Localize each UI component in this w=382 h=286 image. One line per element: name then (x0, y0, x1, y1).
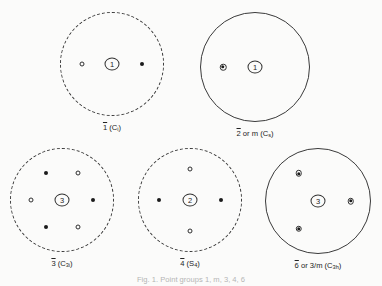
point-open (75, 225, 80, 230)
label-one-bar: 1 (Ci) (103, 124, 121, 133)
label-rest-text: or 3/m (C (299, 261, 333, 270)
label-tail-text: ) (271, 129, 274, 138)
onefold-axis-symbol: 1 (248, 61, 263, 74)
label-three-bar: 3 (C3i) (51, 260, 72, 269)
point-filled (44, 225, 48, 229)
label-two-bar-m: 2 or m (Cs) (237, 130, 274, 139)
point-superposed (296, 225, 303, 232)
point-group-stereogram-figure: 1 1 (Ci) 1 2 or m (Cs) 3 3 (C3i) 2 4 (S4… (0, 0, 382, 286)
point-open (28, 198, 33, 203)
fourfold-inversion-axis-symbol: 2 (183, 194, 198, 207)
point-superposed (348, 198, 355, 205)
point-superposed (220, 64, 227, 71)
label-tail-text: ) (119, 123, 122, 132)
point-filled (157, 198, 161, 202)
sixfold-inversion-axis-symbol: 3 (311, 195, 326, 208)
label-six-bar: 6 or 3/m (C3h) (295, 262, 342, 271)
point-open (75, 170, 80, 175)
figure-caption: Fig. 1. Point groups 1, m, 3, 4, 6 (137, 275, 245, 284)
point-open (79, 62, 84, 67)
label-rest-text: (C (107, 123, 117, 132)
label-rest-text: (S (184, 259, 194, 268)
diagram-three-bar: 3 3 (C3i) (10, 148, 118, 278)
label-tail-text: ) (339, 261, 342, 270)
point-open (188, 166, 193, 171)
diagram-six-bar: 3 6 or 3/m (C3h) (265, 148, 377, 278)
inversion-center-symbol: 1 (105, 58, 120, 71)
label-rest-text: (C (56, 259, 66, 268)
threefold-inversion-axis-symbol: 3 (55, 194, 70, 207)
diagram-four-bar: 2 4 (S4) (138, 148, 246, 278)
point-superposed (296, 170, 303, 177)
label-tail-text: ) (70, 259, 73, 268)
diagram-one-bar: 1 1 (Ci) (60, 12, 165, 142)
point-filled (140, 62, 144, 66)
point-open (188, 229, 193, 234)
label-four-bar: 4 (S4) (180, 260, 200, 269)
label-tail-text: ) (197, 259, 200, 268)
diagram-two-bar-m: 1 2 or m (Cs) (200, 12, 312, 142)
label-rest-text: or m (C (241, 129, 268, 138)
point-filled (219, 198, 223, 202)
point-filled (44, 171, 48, 175)
point-filled (91, 198, 95, 202)
